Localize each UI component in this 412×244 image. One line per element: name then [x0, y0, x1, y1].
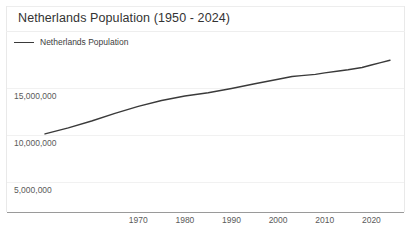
data-line-layer	[0, 0, 412, 244]
plot-area: 5,000,00010,000,00015,000,00019701980199…	[0, 0, 412, 244]
data-series-line	[45, 60, 390, 134]
x-axis-line	[7, 212, 404, 213]
chart-card: Netherlands Population (1950 - 2024) Net…	[0, 0, 412, 244]
